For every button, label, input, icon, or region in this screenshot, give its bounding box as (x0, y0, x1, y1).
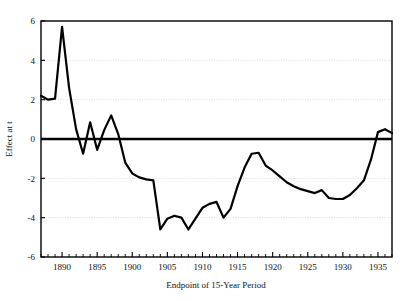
y-axis-title: Effect at t (4, 121, 14, 157)
y-tick-label--2: -2 (28, 174, 36, 184)
y-tick-label--6: -6 (28, 252, 36, 262)
y-tick-label-6: 6 (31, 16, 36, 26)
x-tick-label-1915: 1915 (229, 262, 248, 272)
y-tick-label-0: 0 (31, 134, 36, 144)
x-tick-label-1905: 1905 (158, 262, 177, 272)
x-tick-label-1930: 1930 (334, 262, 353, 272)
y-tick-label-2: 2 (31, 95, 36, 105)
y-tick-label-4: 4 (31, 56, 36, 66)
x-axis-tick-labels: 1890189519001905191019151920192519301935 (53, 262, 387, 272)
x-tick-label-1900: 1900 (123, 262, 142, 272)
y-tick-label--4: -4 (28, 213, 36, 223)
x-tick-label-1920: 1920 (264, 262, 283, 272)
x-tick-label-1895: 1895 (88, 262, 107, 272)
x-tick-label-1890: 1890 (53, 262, 72, 272)
x-tick-label-1910: 1910 (193, 262, 212, 272)
y-axis-tick-labels: -6-4-20246 (28, 16, 36, 262)
chart-container: 1890189519001905191019151920192519301935… (0, 0, 411, 301)
x-tick-label-1925: 1925 (299, 262, 318, 272)
effect-at-t-line-chart: 1890189519001905191019151920192519301935… (0, 0, 411, 301)
x-axis-title: Endpoint of 15-Year Period (166, 280, 266, 290)
x-tick-label-1935: 1935 (369, 262, 388, 272)
